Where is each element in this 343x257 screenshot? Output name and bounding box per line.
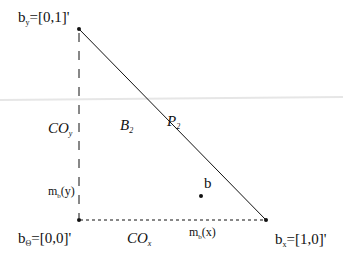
cox-label: COx [127,230,152,248]
vertex-by-dot [77,27,81,31]
coy-label: COy [48,120,73,138]
point-b-label: b [204,175,212,191]
vertex-bx-dot [264,218,268,222]
mby-label: mb(y) [48,184,75,200]
vertex-bx-label: bx=[1,0]' [275,231,327,249]
mbx-label: mb(x) [189,225,216,241]
p2-label: P2 [166,113,180,131]
vertex-bo-label: bΘ=[0,0]' [18,230,71,248]
faint-background-line [0,97,343,100]
simplex-diagram: by=[0,1]' bΘ=[0,0]' bx=[1,0]' P2 B2 COy … [0,0,343,257]
b2-label: B2 [120,117,133,135]
vertex-by-label: by=[0,1]' [18,9,70,27]
vertex-bo-dot [77,218,81,222]
point-b-dot [199,194,203,198]
